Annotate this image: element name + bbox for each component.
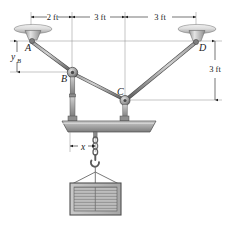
dim-b-c-label: 3 ft	[94, 12, 106, 22]
point-labels: A B C D	[24, 42, 207, 97]
point-d-label: D	[198, 42, 207, 53]
figure-canvas: 2 ft 3 ft 3 ft y B 3 ft	[0, 0, 230, 225]
cable-bc-highlight	[74, 74, 123, 99]
cable-cd-highlight	[127, 43, 195, 99]
point-b-label: B	[61, 73, 67, 84]
suspended-crate	[70, 183, 121, 215]
beam-body	[62, 121, 156, 132]
dim-yb-symbol: y	[10, 52, 16, 62]
pulley-c-hanger-rod	[123, 105, 127, 118]
dim-a-b-label: 2 ft	[47, 12, 59, 22]
beam-lug-left	[68, 116, 77, 121]
ceiling-anchor-right	[178, 24, 216, 44]
dimension-yb: y B	[10, 41, 21, 72]
pulley-b-axle	[71, 71, 74, 74]
anchor-pin-right	[193, 39, 198, 44]
pulley-block-c	[120, 96, 130, 118]
dimension-x: x	[70, 132, 95, 152]
ceiling-anchor-left	[14, 24, 52, 43]
dim-right-label: 3 ft	[209, 64, 221, 74]
pulley-block-b	[67, 67, 77, 117]
point-c-label: C	[117, 86, 124, 97]
pulley-b-clevis	[69, 94, 75, 97]
lifting-hook-assembly	[91, 132, 99, 167]
dimension-right-vertical: 3 ft	[209, 41, 221, 100]
cable-ab-highlight	[32, 42, 71, 71]
dim-x-symbol: x	[80, 142, 86, 152]
dim-c-d-label: 3 ft	[154, 12, 166, 22]
point-a-label: A	[24, 42, 32, 53]
top-dimension-chain: 2 ft 3 ft 3 ft	[31, 12, 196, 22]
beam-lug-right	[120, 116, 129, 121]
dim-yb-subscript: B	[17, 57, 21, 64]
hook-body	[91, 155, 99, 167]
pulley-c-axle	[123, 99, 126, 102]
mechanics-figure: 2 ft 3 ft 3 ft y B 3 ft	[0, 0, 230, 225]
pulley-b-hanger-rod	[70, 77, 75, 95]
pulley-b-lower-rod	[70, 97, 75, 117]
sling-rope-right	[95, 172, 119, 184]
spreader-beam	[62, 116, 156, 132]
sling-rope-left	[72, 172, 95, 184]
cable-group	[32, 42, 195, 99]
